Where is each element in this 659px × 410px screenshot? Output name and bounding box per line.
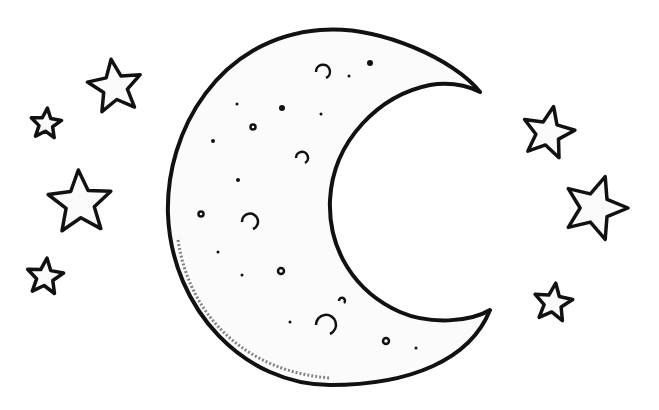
moon-stars-illustration <box>0 0 659 410</box>
star-icon <box>28 258 64 293</box>
star-icon <box>568 177 628 240</box>
star-icon <box>31 108 61 138</box>
star-icon <box>535 283 573 321</box>
star-icon <box>87 59 140 111</box>
star-icon <box>525 107 575 158</box>
star-icon <box>48 170 111 231</box>
crescent-moon <box>168 30 490 385</box>
